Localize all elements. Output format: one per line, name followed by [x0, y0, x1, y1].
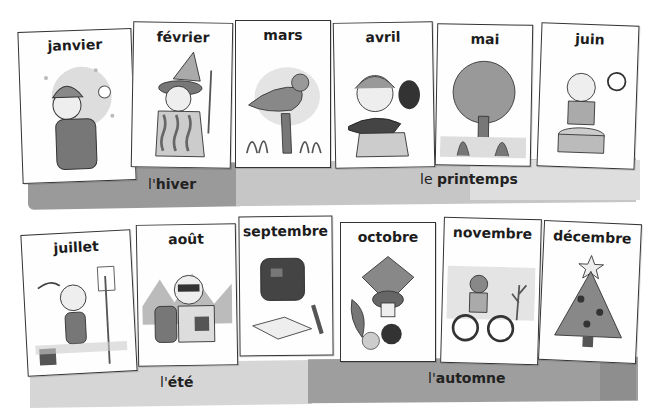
- girl-beach-net-icon: [27, 256, 133, 371]
- month-label: mai: [438, 30, 532, 48]
- hiker-binoculars-icon: [141, 250, 233, 362]
- leaves-mushroom-chestnut-icon: [345, 249, 431, 357]
- month-label: juillet: [22, 236, 131, 258]
- month-card-septembre: septembre: [238, 216, 333, 357]
- month-label: octobre: [341, 229, 435, 245]
- month-card-avril: avril: [333, 21, 436, 169]
- tree-lily-icon: [440, 50, 528, 161]
- child-snowball-icon: [23, 55, 131, 179]
- month-label: mars: [236, 27, 330, 43]
- month-card-novembre: novembre: [440, 217, 542, 366]
- month-label: janvier: [19, 35, 131, 55]
- month-card-fevrier: février: [131, 21, 234, 169]
- month-label: février: [134, 28, 232, 46]
- season-label-summer: l'été: [160, 374, 193, 390]
- month-label: décembre: [544, 227, 641, 247]
- season-label-winter: l'hiver: [148, 176, 196, 192]
- singing-bird-icon: [240, 47, 326, 163]
- season-label-spring: le printemps: [420, 171, 518, 187]
- month-card-juin: juin: [537, 22, 640, 169]
- boy-drum-icon: [542, 49, 634, 164]
- girl-fish-egg-icon: [338, 48, 430, 164]
- season-label-autumn: l'automne: [428, 370, 506, 386]
- month-label: juin: [542, 29, 638, 48]
- month-card-decembre: décembre: [538, 220, 642, 364]
- month-card-juillet: juillet: [20, 229, 137, 377]
- month-label: avril: [334, 28, 432, 46]
- month-label: août: [137, 230, 235, 248]
- month-label: novembre: [444, 224, 540, 243]
- month-card-mai: mai: [435, 23, 533, 167]
- month-card-janvier: janvier: [17, 28, 136, 184]
- clown-carnival-icon: [136, 48, 228, 164]
- month-label: septembre: [239, 223, 331, 240]
- month-card-mars: mars: [235, 20, 331, 168]
- month-card-aout: août: [136, 223, 238, 367]
- christmas-tree-icon: [543, 247, 636, 359]
- schoolbag-book-icon: [244, 243, 329, 352]
- child-bicycle-icon: [445, 244, 536, 360]
- month-card-octobre: octobre: [340, 222, 436, 362]
